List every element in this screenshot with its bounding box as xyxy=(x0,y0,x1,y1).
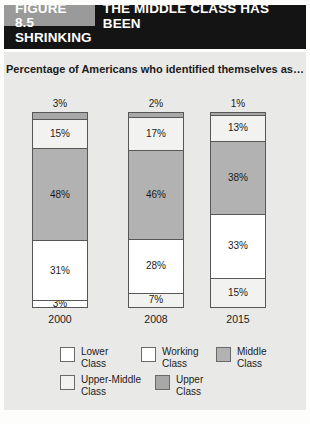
legend-swatch-working-class xyxy=(141,347,156,362)
segment-value-label: 46% xyxy=(146,190,166,200)
bar-segment-2008-lower-class: 7% xyxy=(129,294,183,307)
legend-item-lower-class: Lower Class xyxy=(60,346,108,369)
segment-value-label: 28% xyxy=(146,261,166,271)
legend-item-upper-class: Upper Class xyxy=(155,374,203,397)
legend-label: Middle Class xyxy=(237,346,266,369)
bar-segment-2015-middle-class: 38% xyxy=(211,142,265,215)
chart-panel: Percentage of Americans who identified t… xyxy=(4,52,306,410)
segment-value-label: 33% xyxy=(228,241,248,251)
stacked-bar-2000: 15%48%31%3% xyxy=(32,112,88,308)
figure-header-banner: FIGURE 8.5 THE MIDDLE CLASS HAS BEEN SHR… xyxy=(4,5,306,49)
legend-swatch-upper-middle-class xyxy=(60,375,75,390)
segment-value-label: 48% xyxy=(50,190,70,200)
segment-value-label: 7% xyxy=(149,295,163,305)
bar-segment-2015-working-class: 33% xyxy=(211,215,265,279)
bar-segment-2008-upper-middle-class: 17% xyxy=(129,118,183,151)
chart-subtitle: Percentage of Americans who identified t… xyxy=(4,62,306,77)
x-axis-label-2000: 2000 xyxy=(32,313,88,325)
segment-value-label: 15% xyxy=(228,288,248,298)
x-axis-label-2015: 2015 xyxy=(210,313,266,325)
bar-column-2008: 2%17%46%28%7%2008 xyxy=(128,98,184,330)
chart-legend: Lower ClassWorking ClassMiddle ClassUppe… xyxy=(4,344,306,406)
bar-segment-2000-lower-class: 3% xyxy=(33,301,87,307)
segment-value-label: 13% xyxy=(228,123,248,133)
bar-top-label-2008: 2% xyxy=(128,98,184,109)
legend-item-upper-middle-class: Upper-Middle Class xyxy=(60,374,141,397)
x-axis-label-2008: 2008 xyxy=(128,313,184,325)
banner-first-line: FIGURE 8.5 THE MIDDLE CLASS HAS BEEN xyxy=(4,5,306,26)
bar-segment-2000-upper-class xyxy=(33,113,87,120)
bar-top-label-2015: 1% xyxy=(210,98,266,109)
bar-segment-2008-working-class: 28% xyxy=(129,240,183,294)
legend-item-middle-class: Middle Class xyxy=(216,346,266,369)
stacked-bar-2008: 17%46%28%7% xyxy=(128,112,184,308)
bar-segment-2008-middle-class: 46% xyxy=(129,151,183,239)
segment-value-label: 15% xyxy=(50,129,70,139)
legend-label: Working Class xyxy=(162,346,199,369)
segment-value-label: 3% xyxy=(53,301,67,307)
bar-segment-2000-upper-middle-class: 15% xyxy=(33,120,87,150)
stacked-bar-2015: 13%38%33%15% xyxy=(210,112,266,308)
bar-column-2015: 1%13%38%33%15%2015 xyxy=(210,98,266,330)
legend-swatch-upper-class xyxy=(155,375,170,390)
bar-column-2000: 3%15%48%31%3%2000 xyxy=(32,98,88,330)
legend-swatch-lower-class xyxy=(60,347,75,362)
segment-value-label: 17% xyxy=(146,129,166,139)
bar-segment-2000-middle-class: 48% xyxy=(33,149,87,241)
figure-title-line-2: SHRINKING xyxy=(4,26,92,48)
bar-segment-2015-upper-middle-class: 13% xyxy=(211,116,265,142)
plot-area: 3%15%48%31%3%20002%17%46%28%7%20081%13%3… xyxy=(4,100,306,330)
figure-title-line-1: THE MIDDLE CLASS HAS BEEN xyxy=(95,5,306,26)
figure-container: FIGURE 8.5 THE MIDDLE CLASS HAS BEEN SHR… xyxy=(0,0,310,424)
legend-swatch-middle-class xyxy=(216,347,231,362)
bar-top-label-2000: 3% xyxy=(32,98,88,109)
figure-number-tag: FIGURE 8.5 xyxy=(4,5,95,26)
segment-value-label: 38% xyxy=(228,173,248,183)
bar-segment-2015-lower-class: 15% xyxy=(211,279,265,308)
legend-item-working-class: Working Class xyxy=(141,346,199,369)
bar-segment-2000-working-class: 31% xyxy=(33,241,87,301)
legend-label: Upper-Middle Class xyxy=(81,374,141,397)
legend-label: Lower Class xyxy=(81,346,108,369)
legend-label: Upper Class xyxy=(176,374,203,397)
segment-value-label: 31% xyxy=(50,266,70,276)
